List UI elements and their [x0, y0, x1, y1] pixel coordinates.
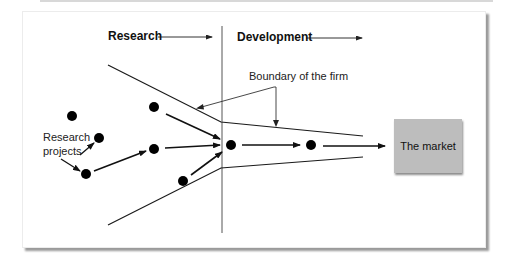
- boundary-leader: [198, 87, 276, 124]
- project-node: [94, 133, 104, 143]
- research-phase-label: Research: [108, 29, 162, 43]
- research-projects-line1: Research: [43, 130, 90, 144]
- market-label: The market: [400, 140, 456, 152]
- label-arrow-to-p3: [61, 159, 80, 171]
- development-node: [306, 140, 316, 150]
- project-nodes: [67, 102, 316, 186]
- flow-p5-d1: [165, 145, 220, 148]
- project-node: [149, 102, 159, 112]
- project-node: [67, 111, 77, 121]
- flow-p6-d1: [191, 152, 222, 175]
- development-node: [226, 140, 236, 150]
- market-box: The market: [394, 119, 462, 173]
- flow-p3-p5: [94, 151, 146, 171]
- development-phase-label: Development: [237, 30, 312, 44]
- boundary-lower: [108, 157, 363, 225]
- boundary-leader-arrowhead-down: [273, 120, 279, 127]
- research-projects-label: Research projects: [43, 130, 90, 158]
- boundary-label: Boundary of the firm: [249, 70, 348, 82]
- project-node: [149, 144, 159, 154]
- project-node: [81, 169, 91, 179]
- project-node: [178, 176, 188, 186]
- boundary-leader-arrowhead-left: [196, 104, 204, 110]
- research-projects-line2: projects: [43, 144, 90, 158]
